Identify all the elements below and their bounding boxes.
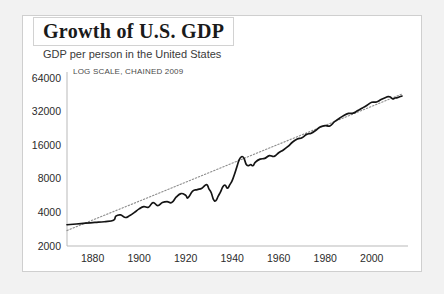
- y-tick-label: 8000: [38, 172, 62, 184]
- log-scale-annotation: LOG SCALE, CHAINED 2009: [73, 67, 184, 76]
- x-tick-label: 2000: [360, 252, 384, 264]
- x-axis-labels: 1880190019201940196019802000: [81, 252, 384, 264]
- y-tick-label: 16000: [32, 139, 61, 151]
- y-tick-label: 64000: [32, 72, 61, 84]
- x-tick-label: 1980: [314, 252, 338, 264]
- chart-title-box: Growth of U.S. GDP: [33, 17, 234, 46]
- gdp-data-line: [67, 96, 402, 225]
- chart-card: 200040008000160003200064000 188019001920…: [22, 15, 422, 272]
- y-tick-label: 4000: [38, 206, 62, 218]
- chart-subtitle: GDP per person in the United States: [43, 48, 221, 60]
- y-axis-labels: 200040008000160003200064000: [32, 72, 61, 252]
- x-tick-label: 1940: [220, 252, 244, 264]
- y-tick-label: 32000: [32, 105, 61, 117]
- x-tick-label: 1900: [127, 252, 151, 264]
- y-tick-label: 2000: [38, 240, 62, 252]
- page-title: Growth of U.S. GDP: [43, 20, 224, 42]
- x-tick-label: 1920: [174, 252, 198, 264]
- trend-line: [67, 94, 402, 231]
- x-tick-label: 1880: [81, 252, 105, 264]
- x-tick-label: 1960: [267, 252, 291, 264]
